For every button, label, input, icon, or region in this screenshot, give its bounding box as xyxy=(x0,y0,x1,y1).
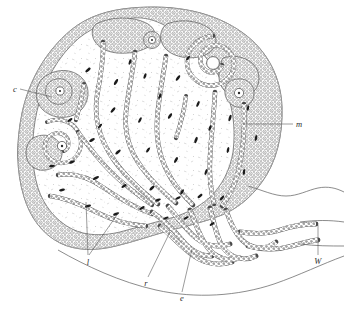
label-l: l xyxy=(87,257,90,267)
spiral-lumen-dot-left xyxy=(61,145,63,147)
leader-line-e xyxy=(182,249,192,292)
spiral-lumen-upper-right xyxy=(207,57,220,70)
label-r: r xyxy=(144,278,148,288)
lumen-dot-top xyxy=(151,39,153,41)
gland-body xyxy=(18,4,288,254)
label-w: W xyxy=(314,256,322,266)
lumen-dot-left xyxy=(59,90,61,92)
leader-line-r xyxy=(148,232,170,277)
histology-figure: c m l r e W xyxy=(0,0,346,317)
figure-root: c m l r e W xyxy=(0,0,346,317)
lumen-dot-right xyxy=(238,92,240,94)
skin-contour-lower xyxy=(58,250,344,295)
duct-outlet-line-upper xyxy=(300,221,344,223)
label-c: c xyxy=(13,84,17,94)
skin-contour-upper xyxy=(248,186,344,196)
label-e: e xyxy=(180,293,184,303)
label-m: m xyxy=(296,119,302,129)
